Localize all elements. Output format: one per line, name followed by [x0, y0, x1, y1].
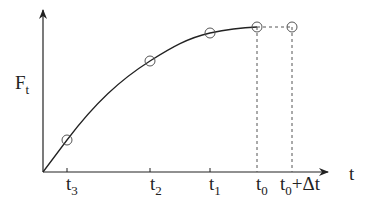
y-axis-label: Ft	[15, 72, 30, 97]
tick-label-t2: t2	[150, 173, 162, 198]
tick-label-t0: t0	[256, 173, 268, 198]
force-curve	[43, 27, 257, 172]
diagram-canvas: Ft t t3 t2 t1 t0 t0+Δt	[0, 0, 371, 217]
tick-label-t1: t1	[209, 173, 221, 198]
tick-label-t3: t3	[66, 173, 78, 198]
data-points	[62, 22, 297, 145]
extrapolation-lines	[257, 27, 292, 172]
tick-label-t0-plus-dt: t0+Δt	[280, 173, 321, 198]
x-axis-label: t	[349, 163, 355, 184]
